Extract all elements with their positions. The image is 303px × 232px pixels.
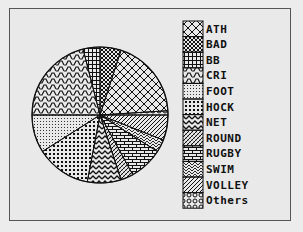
legend-swatch-foot xyxy=(183,83,203,99)
legend-swatch-rugby xyxy=(183,146,203,162)
legend-label-net: NET xyxy=(206,116,227,129)
legend-swatch-bb xyxy=(183,52,203,68)
legend-label-others: Others xyxy=(206,194,249,207)
legend-label-round: ROUND xyxy=(206,132,242,145)
legend-label-bb: BB xyxy=(206,54,220,67)
legend-label-cri: CRI xyxy=(206,69,227,82)
legend-swatch-others xyxy=(183,193,203,209)
legend-label-volley: VOLLEY xyxy=(206,179,249,192)
legend-swatch-hock xyxy=(183,99,203,115)
legend-swatch-swim xyxy=(183,161,203,177)
legend-label-rugby: RUGBY xyxy=(206,147,242,160)
legend-swatch-net xyxy=(183,115,203,131)
legend-swatch-round xyxy=(183,130,203,146)
legend-label-hock: HOCK xyxy=(206,101,235,114)
legend-label-foot: FOOT xyxy=(206,85,235,98)
pie-slices xyxy=(32,47,168,183)
legend-swatch-volley xyxy=(183,177,203,193)
legend-label-ath: ATH xyxy=(206,23,227,36)
legend-swatch-ath xyxy=(183,21,203,37)
legend-label-swim: SWIM xyxy=(206,163,235,176)
legend-label-bad: BAD xyxy=(206,38,227,51)
legend-swatch-cri xyxy=(183,68,203,84)
pie-chart xyxy=(0,0,303,232)
legend xyxy=(183,21,203,208)
legend-swatch-bad xyxy=(183,37,203,53)
